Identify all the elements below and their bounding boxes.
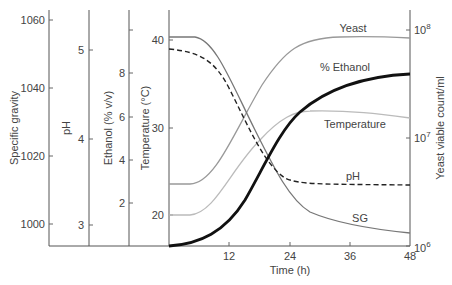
- temperature-axis: 40 30 20 Temperature (°C): [139, 34, 173, 221]
- temp-axis-label: Temperature (°C): [139, 86, 151, 170]
- series-labels: Yeast % Ethanol Temperature pH SG: [320, 22, 386, 224]
- ethanol-axis-label: Ethanol (% v/v): [102, 91, 114, 166]
- ethanol-tick: 4: [119, 154, 125, 166]
- fermentation-chart: 1060 1040 1020 1000 Specific gravity 5 4…: [0, 0, 452, 285]
- ethanol-tick: 6: [119, 111, 125, 123]
- ph-axis: 5 4 3 pH: [60, 44, 93, 231]
- sg-tick: 1000: [21, 218, 45, 230]
- ethanol-axis: 8 6 4 2 Ethanol (% v/v): [102, 30, 133, 209]
- ethanol-label: % Ethanol: [320, 61, 370, 73]
- yeast-tick: 108: [414, 22, 431, 36]
- x-tick: 36: [344, 250, 356, 262]
- sg-tick: 1040: [21, 82, 45, 94]
- ethanol-curve: [169, 74, 410, 246]
- ph-tick: 4: [78, 133, 84, 145]
- ethanol-tick: 2: [119, 197, 125, 209]
- x-tick: 24: [284, 250, 296, 262]
- yeast-axis: 108 107 106 Yeast viable count/ml: [406, 22, 446, 254]
- x-tick: 12: [223, 250, 235, 262]
- temperature-label: Temperature: [324, 118, 386, 130]
- yeast-label: Yeast: [339, 22, 366, 34]
- sg-tick: 1020: [21, 150, 45, 162]
- sg-tick: 1060: [21, 14, 45, 26]
- ph-curve: [169, 49, 410, 185]
- temp-tick: 30: [152, 122, 164, 134]
- sg-axis: 1060 1040 1020 1000 Specific gravity: [8, 14, 53, 230]
- ph-axis-label: pH: [60, 121, 72, 135]
- curves: [169, 37, 410, 246]
- yeast-axis-label: Yeast viable count/ml: [434, 76, 446, 180]
- temp-tick: 40: [152, 34, 164, 46]
- ph-tick: 5: [78, 44, 84, 56]
- ph-label: pH: [346, 170, 360, 182]
- yeast-tick: 107: [414, 130, 431, 144]
- sg-axis-label: Specific gravity: [8, 91, 20, 165]
- ph-tick: 3: [78, 219, 84, 231]
- temp-tick: 20: [152, 209, 164, 221]
- yeast-tick: 106: [414, 240, 431, 254]
- sg-curve: [169, 37, 410, 233]
- ethanol-tick: 8: [119, 67, 125, 79]
- yeast-curve: [169, 37, 410, 184]
- x-axis-label: Time (h): [270, 264, 311, 276]
- sg-label: SG: [352, 212, 368, 224]
- x-axis: 12 24 36 48 Time (h): [223, 242, 416, 276]
